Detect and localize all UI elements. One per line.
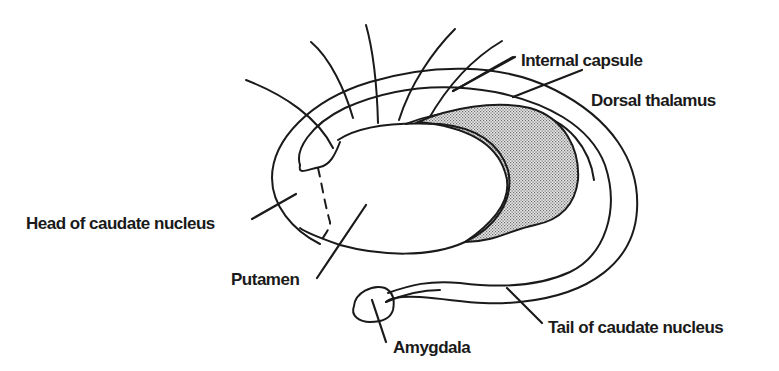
label-tail-of-caudate: Tail of caudate nucleus <box>548 318 723 337</box>
leader-putamen <box>317 205 366 278</box>
leader-dorsal-thalamus <box>513 70 582 97</box>
dorsal-thalamus <box>418 105 578 242</box>
head-putamen-boundary <box>318 168 330 240</box>
label-head-of-caudate: Head of caudate nucleus <box>26 214 215 233</box>
leader-head-of-caudate <box>252 194 296 219</box>
basal-ganglia-diagram: Internal capsule Dorsal thalamus Head of… <box>0 0 779 371</box>
leader-tail-of-caudate <box>507 288 542 323</box>
label-internal-capsule: Internal capsule <box>521 51 642 70</box>
label-putamen: Putamen <box>231 270 299 289</box>
caudate-head-lobe <box>300 142 340 171</box>
caudate-nucleus <box>272 69 637 304</box>
caudate-outer-contour <box>272 69 637 304</box>
label-dorsal-thalamus: Dorsal thalamus <box>591 91 716 110</box>
label-amygdala: Amygdala <box>393 338 471 357</box>
